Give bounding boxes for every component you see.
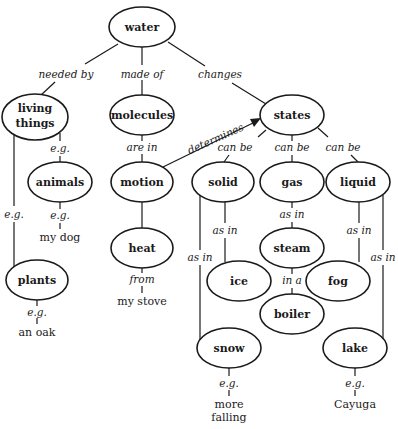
edge-water-needed-by [85, 44, 118, 64]
link-label-eg-animals: e.g. [50, 142, 70, 154]
link-label-from: from [128, 273, 154, 285]
node-label: gas [281, 176, 302, 189]
link-label-as-in-lake: as in [370, 251, 395, 263]
node-label: snow [214, 342, 246, 355]
node-plants: plants [6, 260, 68, 300]
link-label-eg-snow: e.g. [219, 377, 239, 389]
node-states: states [260, 95, 324, 135]
node-steam: steam [260, 228, 324, 268]
edge-changes-states [232, 83, 266, 104]
node-gas: gas [260, 162, 324, 202]
node-label: states [274, 109, 311, 122]
link-label-as-in-ice: as in [212, 224, 237, 236]
node-label: motion [120, 176, 164, 189]
node-label: living [18, 102, 53, 115]
node-label: boiler [274, 308, 310, 321]
link-label-made-of: made of [121, 68, 166, 80]
link-label-eg-dog: e.g. [50, 209, 70, 221]
edge-states-can-be-liquid [318, 128, 328, 137]
link-label-eg-plants: e.g. [4, 208, 24, 220]
node-label: ice [230, 275, 248, 288]
node-label: lake [342, 342, 368, 355]
node-motion: motion [111, 162, 173, 202]
example-my-dog: my dog [40, 231, 81, 244]
link-label-are-in: are in [127, 141, 158, 153]
node-label: fog [328, 275, 348, 288]
example-more: more [215, 398, 244, 411]
node-solid: solid [192, 162, 254, 202]
node-label: animals [36, 176, 84, 189]
edge-can-be-liquid [351, 155, 358, 162]
link-label-can-be-liquid: can be [325, 141, 360, 153]
link-label-changes: changes [198, 68, 243, 80]
edge-states-can-be-solid [258, 130, 266, 137]
link-label-eg-lake: e.g. [345, 377, 365, 389]
example-cayuga: Cayuga [334, 398, 376, 411]
edge-can-be-solid [224, 155, 229, 162]
link-label-can-be-solid: can be [217, 141, 252, 153]
node-molecules: molecules [110, 95, 174, 135]
link-label-as-in-steam: as in [279, 208, 304, 220]
node-label: plants [18, 274, 56, 287]
link-label-as-in-fog: as in [346, 224, 371, 236]
node-snow: snow [197, 328, 261, 368]
node-heat: heat [111, 228, 173, 268]
example-falling: falling [211, 411, 246, 424]
link-label-as-in-snow: as in [187, 251, 212, 263]
example-my-stove: my stove [117, 295, 167, 308]
node-ice: ice [207, 261, 271, 301]
example-an-oak: an oak [19, 326, 56, 339]
node-label: heat [128, 242, 156, 255]
link-label-in-a: in a [282, 274, 302, 286]
concept-map: water living things molecules states ani… [0, 0, 398, 429]
node-animals: animals [28, 162, 92, 202]
node-label: things [15, 117, 54, 130]
node-boiler: boiler [260, 294, 324, 334]
node-living-things: living things [2, 94, 68, 140]
node-label: liquid [340, 176, 376, 189]
node-liquid: liquid [326, 162, 390, 202]
arrowhead-icon [250, 118, 261, 127]
edge-water-changes [168, 42, 205, 66]
node-water: water [109, 7, 175, 47]
link-label-needed-by: needed by [39, 68, 95, 80]
node-label: steam [273, 242, 310, 255]
node-fog: fog [306, 261, 370, 301]
node-label: solid [208, 176, 238, 189]
node-label: water [124, 21, 160, 34]
link-label-can-be-gas: can be [274, 141, 309, 153]
node-label: molecules [111, 109, 173, 122]
node-lake: lake [323, 328, 387, 368]
link-label-eg-oak: e.g. [27, 306, 47, 318]
